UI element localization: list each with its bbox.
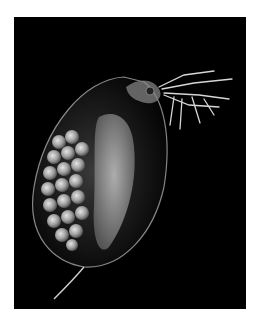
- bottom-caption: [20, 313, 240, 323]
- daphnia-illustration: [14, 17, 246, 309]
- daphnia-photo: [14, 17, 246, 309]
- top-caption: [20, 4, 240, 14]
